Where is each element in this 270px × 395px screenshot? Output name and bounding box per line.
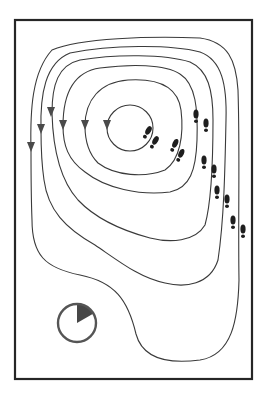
arrow-down-icon [37,124,45,134]
footprint-icon [149,135,160,149]
footprint-icon [240,224,245,238]
contour-map-diagram [0,0,270,395]
footprint-icon [193,109,198,123]
footprint-trail [142,109,246,238]
arrow-down-icon [47,107,55,117]
footprint-icon [201,155,206,169]
contour-line-6 [107,105,153,151]
footprint-icon [214,185,219,199]
arrow-down-icon [81,120,89,130]
footprint-icon [211,164,216,178]
footprint-icon [203,118,208,132]
arrow-down-icon [27,142,35,152]
arrow-down-icon [103,120,111,130]
clock-icon [58,304,96,342]
flow-arrows [27,107,111,152]
contour-line-5 [85,80,182,175]
arrow-down-icon [59,120,67,130]
footprint-icon [230,215,235,229]
contour-line-2 [41,46,226,285]
footprint-icon [224,194,229,208]
